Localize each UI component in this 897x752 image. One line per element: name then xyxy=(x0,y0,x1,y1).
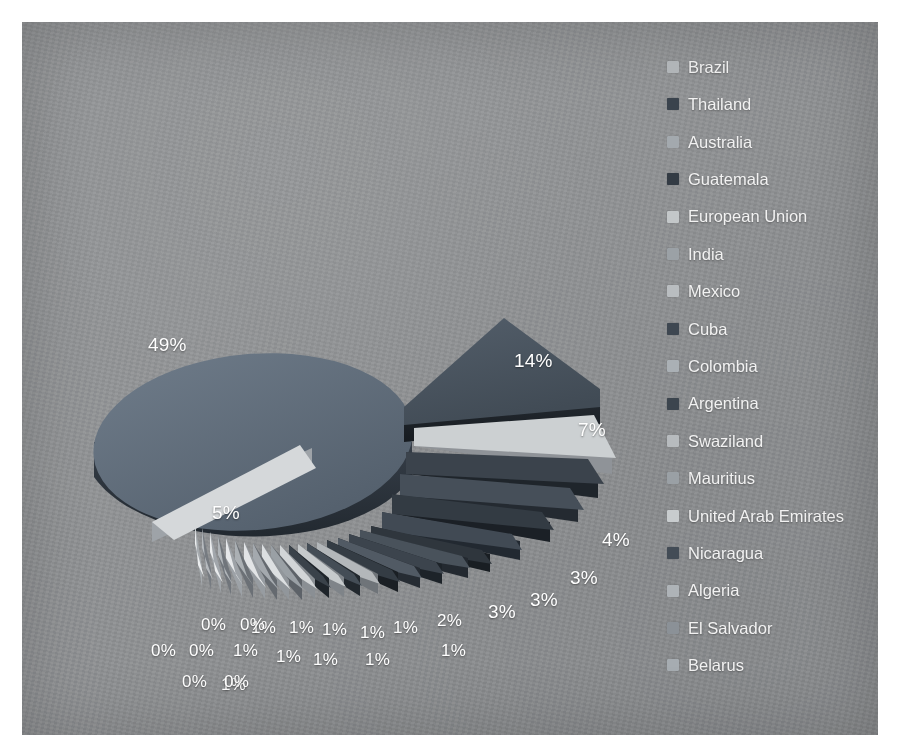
legend-item-colombia[interactable]: Colombia xyxy=(667,355,758,377)
legend-item-label: Guatemala xyxy=(688,171,769,188)
legend-swatch-icon xyxy=(667,659,679,671)
data-label: 5% xyxy=(212,503,240,522)
chart-legend: BrazilThailandAustraliaGuatemalaEuropean… xyxy=(667,56,877,716)
legend-item-label: Algeria xyxy=(688,582,739,599)
data-label: 0% xyxy=(182,673,207,690)
data-label: 0% xyxy=(224,673,249,690)
legend-item-label: Mauritius xyxy=(688,470,755,487)
data-label: 1% xyxy=(441,642,466,659)
legend-swatch-icon xyxy=(667,622,679,634)
data-label: 0% xyxy=(201,616,226,633)
data-label: 14% xyxy=(514,351,553,370)
legend-item-mauritius[interactable]: Mauritius xyxy=(667,467,755,489)
legend-swatch-icon xyxy=(667,136,679,148)
data-label: 49% xyxy=(148,335,187,354)
legend-item-argentina[interactable]: Argentina xyxy=(667,393,759,415)
legend-item-european-union[interactable]: European Union xyxy=(667,206,807,228)
legend-swatch-icon xyxy=(667,472,679,484)
legend-item-label: India xyxy=(688,246,724,263)
data-label: 7% xyxy=(578,420,606,439)
legend-swatch-icon xyxy=(667,323,679,335)
legend-item-belarus[interactable]: Belarus xyxy=(667,654,744,676)
legend-item-label: Argentina xyxy=(688,395,759,412)
pie-slice-brazil[interactable] xyxy=(86,340,420,543)
legend-item-label: Brazil xyxy=(688,59,729,76)
legend-swatch-icon xyxy=(667,547,679,559)
legend-item-swaziland[interactable]: Swaziland xyxy=(667,430,763,452)
legend-swatch-icon xyxy=(667,510,679,522)
legend-item-algeria[interactable]: Algeria xyxy=(667,580,739,602)
data-label: 3% xyxy=(530,590,558,609)
legend-swatch-icon xyxy=(667,211,679,223)
legend-item-label: United Arab Emirates xyxy=(688,508,844,525)
data-label: 2% xyxy=(437,612,462,629)
data-label: 1% xyxy=(289,619,314,636)
data-label: 0% xyxy=(189,642,214,659)
data-label: 0% xyxy=(151,642,176,659)
legend-item-label: European Union xyxy=(688,208,807,225)
legend-swatch-icon xyxy=(667,98,679,110)
legend-item-brazil[interactable]: Brazil xyxy=(667,56,729,78)
legend-item-label: Cuba xyxy=(688,321,727,338)
legend-swatch-icon xyxy=(667,435,679,447)
legend-item-nicaragua[interactable]: Nicaragua xyxy=(667,542,763,564)
legend-item-label: Australia xyxy=(688,134,752,151)
legend-item-mexico[interactable]: Mexico xyxy=(667,280,740,302)
screenshot-root: 49%14%7%5%4%3%3%3%2%1%1%1%1%1%1%1%1%1%1%… xyxy=(0,0,897,752)
legend-swatch-icon xyxy=(667,173,679,185)
legend-item-label: Colombia xyxy=(688,358,758,375)
legend-item-el-salvador[interactable]: El Salvador xyxy=(667,617,772,639)
legend-item-cuba[interactable]: Cuba xyxy=(667,318,727,340)
data-label: 1% xyxy=(360,624,385,641)
data-label: 1% xyxy=(322,621,347,638)
legend-item-australia[interactable]: Australia xyxy=(667,131,752,153)
legend-item-label: Thailand xyxy=(688,96,751,113)
data-label: 3% xyxy=(488,602,516,621)
legend-swatch-icon xyxy=(667,585,679,597)
data-label: 1% xyxy=(393,619,418,636)
legend-item-thailand[interactable]: Thailand xyxy=(667,93,751,115)
legend-item-label: El Salvador xyxy=(688,620,772,637)
legend-item-label: Nicaragua xyxy=(688,545,763,562)
legend-item-label: Belarus xyxy=(688,657,744,674)
legend-item-label: Swaziland xyxy=(688,433,763,450)
data-label: 3% xyxy=(570,568,598,587)
legend-item-united-arab-emirates[interactable]: United Arab Emirates xyxy=(667,505,844,527)
legend-swatch-icon xyxy=(667,61,679,73)
data-label: 4% xyxy=(602,530,630,549)
legend-item-guatemala[interactable]: Guatemala xyxy=(667,168,769,190)
legend-swatch-icon xyxy=(667,398,679,410)
data-label: 1% xyxy=(276,648,301,665)
legend-swatch-icon xyxy=(667,360,679,372)
chart-plot-area: 49%14%7%5%4%3%3%3%2%1%1%1%1%1%1%1%1%1%1%… xyxy=(22,22,878,735)
legend-swatch-icon xyxy=(667,248,679,260)
legend-item-india[interactable]: India xyxy=(667,243,724,265)
data-label: 0% xyxy=(240,616,265,633)
legend-swatch-icon xyxy=(667,285,679,297)
data-label: 1% xyxy=(365,651,390,668)
data-label: 1% xyxy=(313,651,338,668)
legend-item-label: Mexico xyxy=(688,283,740,300)
data-label: 1% xyxy=(233,642,258,659)
